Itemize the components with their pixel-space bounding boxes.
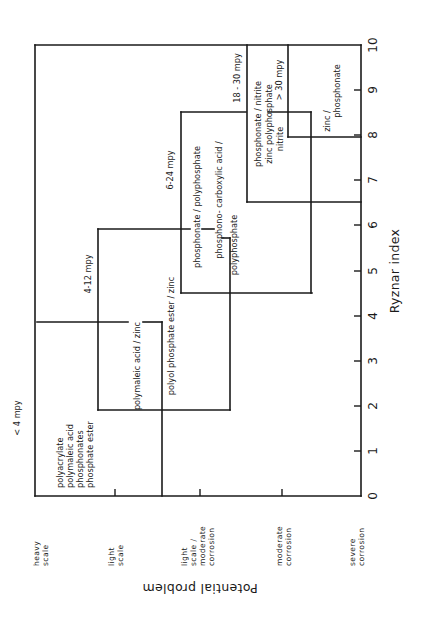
- tick-label-2: 2: [366, 402, 380, 410]
- tick-label-7: 7: [366, 176, 380, 184]
- category-light-moderate-line1: light: [180, 547, 189, 566]
- inhibitor-phosphonates: phosphonates: [75, 430, 85, 488]
- tick-label-5: 5: [366, 267, 380, 275]
- ryznar-axis: 0 1 2 3 4 5 6 7 8 9 10 Ryznar index: [354, 37, 402, 499]
- tick-label-8: 8: [366, 131, 380, 139]
- potential-problem-axis-title: Potential problem: [142, 581, 258, 596]
- tick-label-9: 9: [366, 86, 380, 94]
- inhibitor-phosphate-ester: phosphate ester: [85, 421, 95, 488]
- rate-label-lt4: < 4 mpy: [12, 400, 22, 435]
- inhibitor-zinc: zinc /: [322, 110, 332, 132]
- inhibitor-polymaleic-acid-zinc: polymaleic acid / zinc: [132, 322, 142, 410]
- category-light-moderate-line4: corrosion: [207, 527, 216, 566]
- inhibitor-nitrite: nitrite: [275, 127, 285, 152]
- inhibitor-polymaleic-acid: polymaleic acid: [65, 424, 75, 488]
- category-light-moderate-line3: moderate: [198, 526, 207, 566]
- ryznar-axis-title: Ryznar index: [387, 229, 402, 313]
- category-severe-corrosion-line2: corrosion: [357, 527, 366, 566]
- category-heavy-scale-line2: scale: [41, 544, 50, 566]
- inhibitor-phosphonate-polyphosphate: phosphonate / polyphosphate: [192, 146, 202, 268]
- rate-label-gt30: > 30 mpy: [274, 60, 284, 101]
- tick-label-6: 6: [366, 221, 380, 229]
- inhibitor-phosphonate: phosphonate: [332, 64, 342, 118]
- ryznar-diagram: 0 1 2 3 4 5 6 7 8 9 10 Ryznar index: [0, 0, 425, 622]
- category-severe-corrosion-line1: severe: [348, 538, 357, 566]
- inhibitors-lt4: polyacrylate polymaleic acid phosphonate…: [55, 421, 95, 488]
- rate-label-6-24: 6-24 mpy: [165, 150, 175, 189]
- rate-label-18-30: 18 - 30 mpy: [232, 53, 242, 103]
- rate-label-4-12: 4-12 mpy: [83, 254, 93, 293]
- inhibitor-phosphonate-nitrite: phosphonate / nitrite: [253, 81, 263, 167]
- inhibitor-polyol-phosphate-ester-zinc: polyol phosphate ester / zinc: [166, 277, 176, 395]
- category-light-scale-line1: light: [107, 547, 116, 566]
- tick-label-4: 4: [366, 312, 380, 320]
- category-heavy-scale-line1: heavy: [32, 541, 41, 566]
- category-moderate-corrosion-line1: moderate: [275, 526, 284, 566]
- category-light-scale-line2: scale: [116, 544, 125, 566]
- tick-label-0: 0: [366, 492, 380, 500]
- inhibitor-zinc-polyphosphate: zinc polyphosphate: [264, 84, 274, 164]
- category-ticks: [115, 489, 282, 496]
- category-moderate-corrosion-line2: corrosion: [284, 527, 293, 566]
- tick-label-10: 10: [366, 37, 380, 52]
- inhibitor-phosphono-carboxylic-acid: phosphono- carboxylic acid /: [214, 141, 224, 259]
- inhibitor-polyacrylate: polyacrylate: [55, 437, 65, 488]
- inhibitor-polyphosphate: polyphosphate: [229, 215, 239, 276]
- potential-problem-categories: heavy scale light scale light scale / mo…: [32, 526, 366, 566]
- tick-label-3: 3: [366, 357, 380, 365]
- tick-label-1: 1: [366, 447, 380, 455]
- category-light-moderate-line2: scale /: [189, 539, 198, 566]
